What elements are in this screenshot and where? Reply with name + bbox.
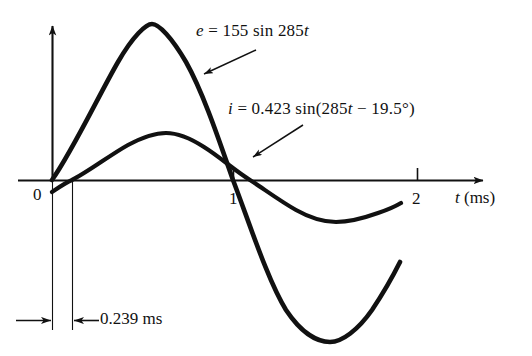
- current-equation-body: = 0.423 sin(285: [233, 99, 348, 118]
- plot-area: [0, 0, 532, 356]
- voltage-equation-label: e = 155 sin 285t: [196, 22, 309, 39]
- current-curve: [52, 133, 401, 222]
- current-equation-phase: − 19.5°): [353, 99, 415, 118]
- x-axis-label: t (ms): [455, 189, 495, 206]
- dimension-label: 0.239 ms: [100, 310, 162, 327]
- x-tick-label-2: 2: [412, 190, 421, 207]
- sinusoid-figure: e = 155 sin 285t i = 0.423 sin(285t − 19…: [0, 0, 532, 356]
- x-tick-label-1: 1: [229, 190, 238, 207]
- x-axis-units: (ms): [460, 188, 495, 207]
- origin-label: 0: [33, 186, 42, 203]
- voltage-equation-body: = 155 sin 285: [204, 21, 304, 40]
- voltage-leader-arrow: [204, 50, 256, 74]
- current-leader-arrow: [253, 125, 303, 157]
- current-equation-label: i = 0.423 sin(285t − 19.5°): [228, 100, 415, 117]
- voltage-curve: [52, 24, 400, 342]
- voltage-equation-time-variable: t: [304, 21, 309, 40]
- voltage-equation-variable: e: [196, 21, 204, 40]
